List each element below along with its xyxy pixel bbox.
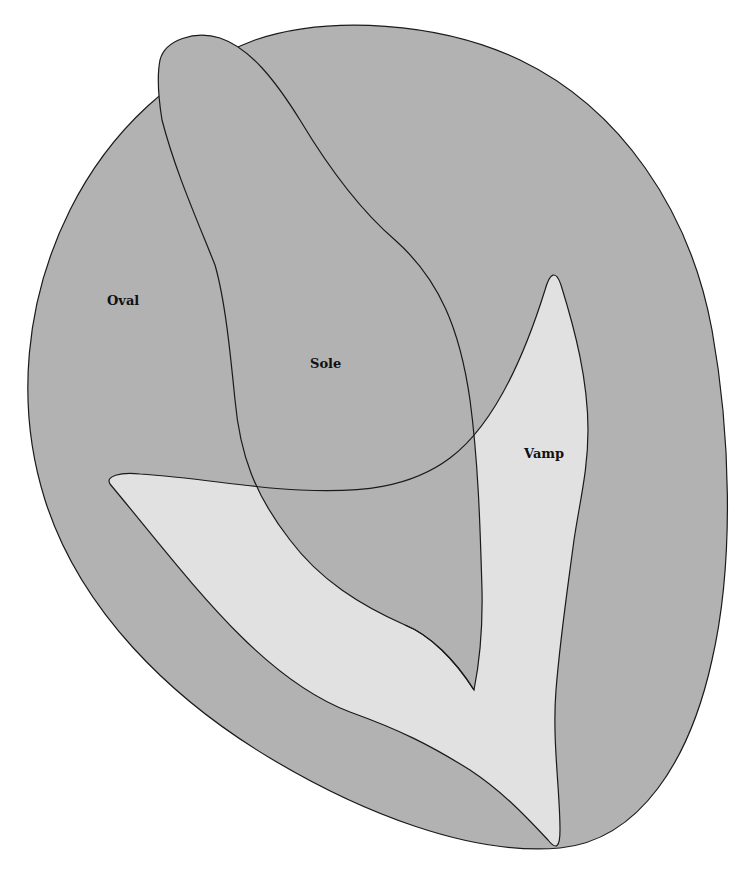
shoe-pattern-diagram — [0, 0, 736, 870]
oval-label: Oval — [107, 293, 139, 308]
sole-label: Sole — [310, 356, 341, 371]
vamp-label: Vamp — [524, 446, 564, 461]
